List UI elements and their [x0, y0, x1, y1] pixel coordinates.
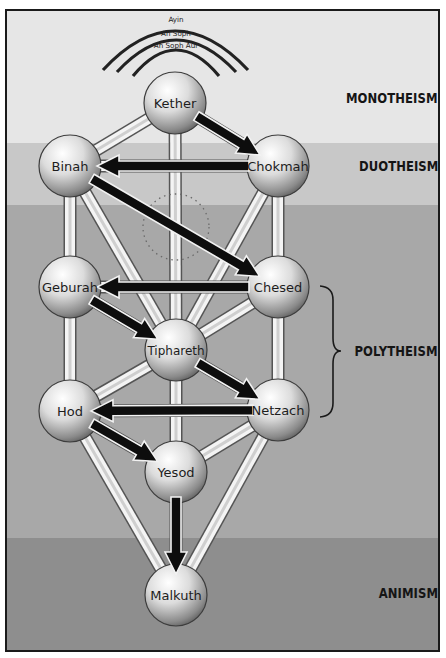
sephira-label-netzach: Netzach: [252, 403, 305, 418]
veil-label-an-soph: An Soph: [161, 29, 191, 38]
sephira-label-kether: Kether: [154, 96, 197, 111]
veil-label-an-soph-aur: An Soph Aur: [154, 41, 199, 50]
sephira-label-tiphareth: Tiphareth: [146, 344, 204, 358]
sephira-label-chesed: Chesed: [254, 280, 302, 295]
level-label-polytheism: POLYTHEISM: [355, 343, 438, 359]
sephira-label-malkuth: Malkuth: [150, 588, 202, 603]
level-label-duotheism: DUOTHEISM: [358, 158, 438, 174]
level-label-monotheism: MONOTHEISM: [346, 90, 438, 106]
veils-of-negative-existence: Ayin An Soph An Soph Aur: [103, 15, 248, 76]
sephira-label-geburah: Geburah: [42, 280, 98, 295]
level-label-animism: ANIMISM: [379, 585, 438, 601]
sephira-label-binah: Binah: [52, 159, 89, 174]
veil-label-ayin: Ayin: [168, 15, 183, 24]
sephira-label-chokmah: Chokmah: [247, 159, 309, 174]
sephira-label-hod: Hod: [57, 404, 83, 419]
tree-of-life-diagram: Ayin An Soph An Soph Aur KetherBinahChok…: [0, 0, 446, 658]
flow-arrow-yesod-to-malkuth: [165, 497, 187, 574]
polytheism-brace: [320, 286, 341, 417]
sephira-label-yesod: Yesod: [156, 465, 194, 480]
